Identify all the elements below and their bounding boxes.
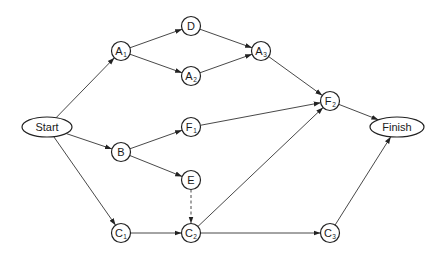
node-label: Finish: [382, 121, 411, 133]
node-subscript: 2: [193, 233, 197, 240]
node-label: C: [115, 227, 123, 239]
node-subscript: 1: [123, 51, 127, 58]
node-subscript: 1: [193, 127, 197, 134]
node-A2: A2: [182, 67, 201, 86]
edge-C3-to-finish: [335, 137, 391, 225]
node-label: A: [255, 45, 263, 57]
node-subscript: 1: [123, 233, 127, 240]
node-subscript: 3: [263, 51, 267, 58]
node-E: E: [182, 171, 201, 190]
node-label: C: [185, 227, 193, 239]
edge-C2-to-F2: [198, 108, 323, 227]
node-label: E: [187, 174, 194, 186]
node-C1: C1: [112, 224, 131, 243]
node-label: B: [117, 146, 124, 158]
node-label: A: [115, 45, 123, 57]
network-canvas: StartA1DA2A3F2FinishBF1EC1C2C3: [0, 0, 446, 254]
node-C3: C3: [321, 224, 340, 243]
node-subscript: 2: [332, 101, 336, 108]
node-label: D: [187, 20, 195, 32]
edge-start-to-A1: [56, 58, 114, 118]
node-label: F: [186, 121, 193, 133]
edges-layer: [54, 29, 391, 233]
edge-D-to-A3: [200, 29, 252, 48]
edge-F2-to-finish: [339, 104, 379, 119]
node-label: Start: [35, 121, 58, 133]
node-A1: A1: [112, 42, 131, 61]
node-F1: F1: [182, 118, 201, 137]
node-D: D: [182, 17, 201, 36]
node-label: A: [185, 70, 193, 82]
edge-start-to-C1: [54, 137, 116, 226]
node-start: Start: [22, 117, 72, 137]
edge-start-to-B: [66, 134, 112, 150]
activity-network-diagram: StartA1DA2A3F2FinishBF1EC1C2C3: [0, 0, 446, 254]
node-subscript: 3: [332, 233, 336, 240]
edge-A1-to-D: [130, 29, 182, 48]
edge-A3-to-F2: [269, 57, 323, 96]
edge-B-to-E: [130, 156, 182, 177]
edge-B-to-F1: [130, 130, 182, 149]
node-F2: F2: [321, 92, 340, 111]
edge-A2-to-A3: [200, 54, 252, 73]
node-B: B: [112, 143, 131, 162]
node-finish: Finish: [370, 117, 424, 137]
node-A3: A3: [252, 42, 271, 61]
node-C2: C2: [182, 224, 201, 243]
node-label: C: [324, 227, 332, 239]
edge-F1-to-F2: [200, 103, 320, 126]
edge-A1-to-A2: [130, 54, 182, 73]
node-label: F: [325, 95, 332, 107]
nodes-layer: StartA1DA2A3F2FinishBF1EC1C2C3: [22, 17, 424, 243]
node-subscript: 2: [193, 76, 197, 83]
